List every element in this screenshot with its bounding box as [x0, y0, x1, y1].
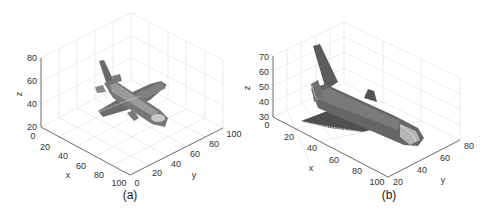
y-axis-label-b: y: [441, 175, 446, 185]
svg-text:70: 70: [259, 52, 269, 62]
figure: 80 60 40 20 z 0 20 40 60 80 100 x 0 20 4…: [0, 0, 489, 214]
svg-text:20: 20: [393, 177, 403, 187]
z-axis-label-a: z: [14, 91, 24, 96]
svg-text:80: 80: [94, 170, 104, 180]
x-axis-label-b: x: [309, 163, 314, 173]
panel-b: 70 60 50 40 30 z 0 20 40 60 80 100 x 20 …: [242, 22, 474, 202]
z-ticks-a: 80 60 40 20: [27, 53, 37, 132]
svg-text:80: 80: [464, 141, 474, 151]
z-ticks-b: 70 60 50 40 30: [259, 52, 269, 122]
svg-text:40: 40: [27, 99, 37, 109]
svg-text:40: 40: [307, 143, 317, 153]
svg-text:60: 60: [440, 153, 450, 163]
y-ticks-b: 20 40 60 80: [393, 141, 474, 187]
svg-text:40: 40: [58, 151, 68, 161]
x-ticks-a: 0 20 40 60 80 100: [30, 131, 126, 188]
svg-text:100: 100: [226, 129, 241, 139]
svg-text:0: 0: [134, 178, 139, 188]
y-axis-label-a: y: [192, 170, 197, 180]
svg-text:0: 0: [264, 120, 269, 130]
svg-text:20: 20: [284, 132, 294, 142]
svg-text:80: 80: [352, 166, 362, 176]
panel-a: 80 60 40 20 z 0 20 40 60 80 100 x 0 20 4…: [14, 13, 242, 202]
svg-text:0: 0: [30, 131, 35, 141]
svg-text:60: 60: [329, 155, 339, 165]
svg-text:80: 80: [209, 139, 219, 149]
space-shuttle-model: [301, 44, 424, 146]
svg-text:80: 80: [27, 53, 37, 63]
svg-text:60: 60: [27, 76, 37, 86]
svg-text:100: 100: [369, 177, 384, 187]
caption-b: (b): [382, 188, 397, 202]
x-axis-label-a: x: [66, 170, 71, 180]
svg-text:50: 50: [259, 82, 269, 92]
z-axis-label-b: z: [242, 85, 252, 90]
svg-text:40: 40: [259, 97, 269, 107]
svg-text:60: 60: [259, 67, 269, 77]
svg-text:60: 60: [76, 161, 86, 171]
svg-text:20: 20: [40, 142, 50, 152]
svg-text:40: 40: [171, 159, 181, 169]
caption-a: (a): [123, 188, 138, 202]
y-ticks-a: 0 20 40 60 80 100: [134, 129, 241, 188]
svg-text:40: 40: [417, 165, 427, 175]
svg-text:60: 60: [190, 149, 200, 159]
svg-text:20: 20: [152, 168, 162, 178]
svg-text:100: 100: [111, 178, 126, 188]
airplane-model: [95, 60, 168, 127]
